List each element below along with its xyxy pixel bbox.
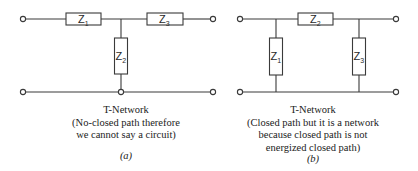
- terminal-a-bottom-left: [20, 89, 25, 94]
- terminal-b-top-right: [393, 16, 398, 21]
- circuit-b: Z1 Z2 Z3: [237, 13, 398, 95]
- caption-b-line-1: (Closed path but it is a network: [228, 117, 398, 130]
- caption-a-line-1: (No-closed path therefore: [56, 117, 196, 130]
- caption-a-title: T-Network: [56, 104, 196, 117]
- terminal-a-top-left: [20, 16, 25, 21]
- label-a: (a): [106, 150, 146, 161]
- node-a-bottom-junction: [118, 89, 123, 94]
- terminal-a-top-right: [210, 16, 215, 21]
- terminal-a-bottom-right: [210, 89, 215, 94]
- terminal-b-top-left: [237, 16, 242, 21]
- caption-b: T-Network (Closed path but it is a netwo…: [228, 104, 398, 154]
- caption-b-line-2: because closed path is not: [228, 129, 398, 142]
- caption-a: T-Network (No-closed path therefore we c…: [56, 104, 196, 142]
- caption-a-line-2: we cannot say a circuit): [56, 129, 196, 142]
- terminal-b-bottom-right: [393, 89, 398, 94]
- caption-b-title: T-Network: [228, 104, 398, 117]
- terminal-b-bottom-left: [237, 89, 242, 94]
- label-b: (b): [293, 153, 333, 164]
- circuit-a: Z1 Z3 Z2: [20, 13, 215, 95]
